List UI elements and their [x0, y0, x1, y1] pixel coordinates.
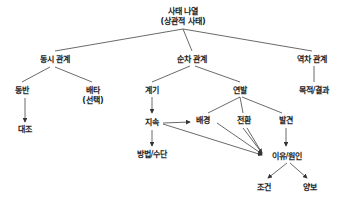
edge-root-reverse [183, 29, 312, 51]
node-method-means: 방법/수단 [137, 150, 168, 160]
node-simultaneous: 동시 관계 [40, 55, 71, 65]
node-concession: 양보 [303, 183, 317, 193]
node-development-label: 발견 [279, 116, 293, 126]
edge-root-simultaneous [55, 29, 183, 51]
node-continuation-label: 지속 [145, 118, 159, 128]
node-transition-label: 전환 [237, 116, 251, 126]
node-chain-label: 연발 [233, 86, 247, 96]
edge-layer [0, 0, 337, 213]
node-chain: 연발 [233, 86, 247, 96]
node-contrast-label: 대조 [18, 125, 32, 135]
node-accompany-label: 동반 [15, 86, 29, 96]
edge-reason-concession [290, 163, 307, 178]
node-sequential-label: 순차 관계 [177, 55, 208, 65]
node-purpose-result-label: 목적/결과 [299, 86, 330, 96]
node-simultaneous-label: 동시 관계 [40, 55, 71, 65]
node-purpose-result: 목적/결과 [299, 86, 330, 96]
node-transition: 전환 [237, 116, 251, 126]
node-reason-cause: 이유/원인 [272, 152, 303, 162]
diagram-canvas: 사태 나열 (상관적 사태) 동시 관계 순차 관계 역차 관계 동반 배타 (… [0, 0, 337, 213]
node-concession-label: 양보 [303, 183, 317, 193]
node-condition-label: 조건 [257, 183, 271, 193]
node-continuation: 지속 [145, 118, 159, 128]
edge-sequential-chain [195, 66, 240, 82]
edge-sequential-trigger [152, 66, 190, 82]
edge-root-sequential [183, 29, 192, 51]
node-root-line1: 사태 나열 [160, 7, 205, 17]
edge-background-reason [217, 123, 262, 154]
node-method-means-label: 방법/수단 [137, 150, 168, 160]
edge-chain-development [242, 97, 282, 113]
edge-transition-reason [243, 128, 262, 153]
node-reverse: 역차 관계 [297, 55, 328, 65]
node-trigger-label: 계기 [145, 86, 159, 96]
node-exclusive: 배타 (선택) [82, 86, 103, 106]
node-background: 배경 [196, 116, 210, 126]
node-accompany: 동반 [15, 86, 29, 96]
node-root-line2: (상관적 사태) [160, 17, 205, 27]
edge-simultaneous-accompany [22, 67, 50, 82]
node-condition: 조건 [257, 183, 271, 193]
node-root: 사태 나열 (상관적 사태) [160, 7, 205, 27]
edge-simultaneous-exclusive [55, 67, 92, 82]
edge-continuation-background [163, 122, 190, 123]
node-exclusive-line1: 배타 [82, 86, 103, 96]
node-reverse-label: 역차 관계 [297, 55, 328, 65]
edge-chain-background [208, 97, 240, 113]
node-trigger: 계기 [145, 86, 159, 96]
node-contrast: 대조 [18, 125, 32, 135]
edge-chain-transition [240, 97, 243, 113]
node-reason-cause-label: 이유/원인 [272, 152, 303, 162]
node-development: 발견 [279, 116, 293, 126]
node-exclusive-line2: (선택) [82, 96, 103, 106]
node-sequential: 순차 관계 [177, 55, 208, 65]
node-background-label: 배경 [196, 116, 210, 126]
edge-reason-condition [268, 163, 287, 178]
